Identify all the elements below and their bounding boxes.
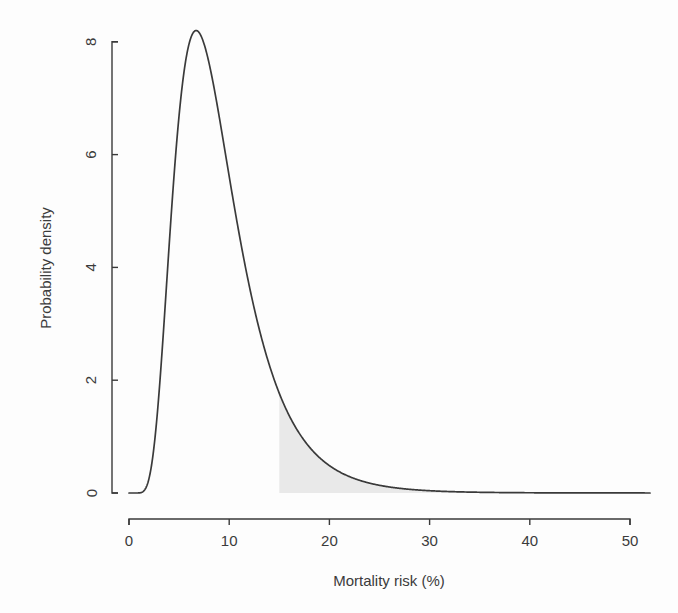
shaded-tail-region <box>279 393 650 493</box>
y-tick-label: 6 <box>83 150 100 158</box>
x-axis-line <box>129 519 630 525</box>
density-curve <box>129 31 650 493</box>
x-tick-label: 10 <box>221 532 238 549</box>
y-tick-label-group: 02468 <box>83 38 100 498</box>
plot-area <box>129 31 650 493</box>
x-tick-label-group: 01020304050 <box>125 532 639 549</box>
x-tick-label: 50 <box>622 532 639 549</box>
x-axis <box>129 519 630 525</box>
x-tick-label: 30 <box>421 532 438 549</box>
x-tick-label: 20 <box>321 532 338 549</box>
y-tick-label: 2 <box>83 376 100 384</box>
x-tick-label: 40 <box>521 532 538 549</box>
y-tick-label: 8 <box>83 38 100 46</box>
chart-canvas: 02468 01020304050 Mortality risk (%) Pro… <box>0 0 678 613</box>
x-tick-label: 0 <box>125 532 133 549</box>
y-axis-title: Probability density <box>37 207 54 329</box>
density-plot-figure: 02468 01020304050 Mortality risk (%) Pro… <box>0 0 678 613</box>
y-axis <box>112 42 118 493</box>
x-axis-title: Mortality risk (%) <box>333 572 445 589</box>
y-tick-label: 4 <box>83 263 100 271</box>
y-tick-label: 0 <box>83 489 100 497</box>
